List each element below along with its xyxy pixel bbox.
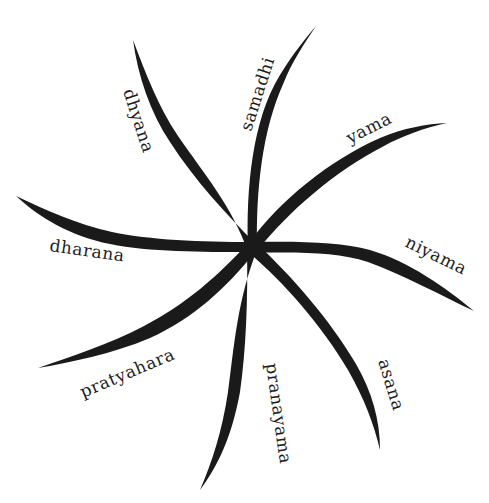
- center-hub: [246, 241, 258, 253]
- limb-dharana: dharana: [16, 196, 252, 265]
- limb-niyama: niyama: [252, 232, 474, 311]
- limb-pratyahara: pratyahara: [38, 243, 256, 402]
- limb-yama: yama: [249, 108, 447, 251]
- asana-label: asana: [374, 356, 409, 413]
- limb-dhyana: dhyana: [119, 40, 256, 252]
- pratyahara-branch: [38, 243, 256, 368]
- asana-branch: [248, 243, 380, 450]
- eight-limbs-diagram: samadhi yama niyama asana pranayama prat…: [0, 0, 489, 503]
- pranayama-label: pranayama: [262, 362, 296, 465]
